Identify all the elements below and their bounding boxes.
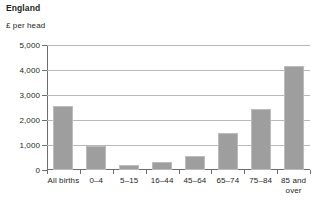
chart-container: England £ per head 5,0004,0003,0002,0001… — [0, 0, 324, 207]
y-axis-tick-label: 0 — [35, 166, 40, 175]
bar-slot — [47, 45, 80, 170]
chart-title: England — [6, 3, 40, 13]
bar-slot — [244, 45, 277, 170]
bar — [53, 106, 73, 170]
bar-slot — [146, 45, 179, 170]
bar — [86, 146, 106, 170]
x-axis-tick-mark — [277, 170, 278, 174]
bar — [185, 156, 205, 170]
x-axis-tick-label: 85 andover — [277, 176, 310, 196]
bar-slot — [211, 45, 244, 170]
plot-area — [47, 45, 310, 170]
x-axis-tick-label: 45–64 — [179, 176, 212, 196]
bar-slot — [277, 45, 310, 170]
x-axis-tick-label: 16–44 — [146, 176, 179, 196]
x-axis-tick-mark — [80, 170, 81, 174]
x-axis-tick-mark — [211, 170, 212, 174]
x-axis-tick-marks — [47, 170, 310, 174]
x-axis-tick-mark — [244, 170, 245, 174]
bar — [251, 109, 271, 170]
x-axis-tick-labels: All births0–45–1516–4445–6465–7475–8485 … — [47, 176, 310, 196]
chart-axis-units-label: £ per head — [6, 21, 45, 30]
y-axis-tick-label: 1,000 — [19, 141, 40, 150]
y-axis-tick-label: 2,000 — [19, 116, 40, 125]
x-axis-tick-label: 65–74 — [211, 176, 244, 196]
x-axis-tick-mark — [47, 170, 48, 174]
x-axis-tick-label: All births — [47, 176, 80, 196]
bar-slot — [179, 45, 212, 170]
x-axis-tick-label: 0–4 — [80, 176, 113, 196]
x-axis-tick-mark — [146, 170, 147, 174]
x-axis-tick-label: 5–15 — [113, 176, 146, 196]
x-axis-tick-mark — [113, 170, 114, 174]
bar — [152, 162, 172, 170]
y-axis-tick-label: 5,000 — [19, 41, 40, 50]
x-axis-tick-mark — [310, 170, 311, 174]
x-axis-tick-label: 75–84 — [244, 176, 277, 196]
x-axis-tick-mark — [179, 170, 180, 174]
bar — [218, 133, 238, 170]
y-axis-tick-label: 4,000 — [19, 66, 40, 75]
bar-series — [47, 45, 310, 170]
bar — [284, 66, 304, 171]
bar-slot — [113, 45, 146, 170]
y-axis-tick-label: 3,000 — [19, 91, 40, 100]
bar-slot — [80, 45, 113, 170]
